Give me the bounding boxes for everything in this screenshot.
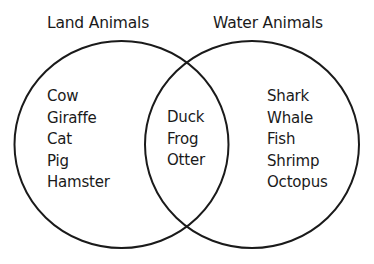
list-item: Duck — [167, 107, 205, 129]
list-item: Octopus — [267, 172, 328, 194]
list-item: Cow — [47, 86, 110, 108]
list-item: Hamster — [47, 172, 110, 194]
intersection-list: Duck Frog Otter — [167, 107, 205, 172]
land-animals-title: Land Animals — [47, 14, 149, 32]
list-item: Whale — [267, 108, 328, 130]
land-only-list: Cow Giraffe Cat Pig Hamster — [47, 86, 110, 194]
list-item: Otter — [167, 150, 205, 172]
water-only-list: Shark Whale Fish Shrimp Octopus — [267, 86, 328, 194]
list-item: Pig — [47, 151, 110, 173]
list-item: Shrimp — [267, 151, 328, 173]
list-item: Fish — [267, 129, 328, 151]
list-item: Giraffe — [47, 108, 110, 130]
list-item: Frog — [167, 129, 205, 151]
list-item: Shark — [267, 86, 328, 108]
venn-diagram: Land Animals Water Animals Cow Giraffe C… — [0, 0, 374, 264]
water-animals-title: Water Animals — [213, 14, 323, 32]
list-item: Cat — [47, 129, 110, 151]
